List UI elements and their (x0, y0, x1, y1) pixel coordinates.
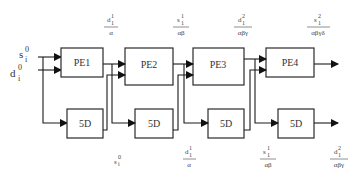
pe4-block: PE4 (266, 48, 314, 77)
svg-text:s: s (314, 16, 317, 24)
svg-text:1: 1 (181, 20, 184, 26)
top-label-4: s 2 1 αβγδ (307, 13, 330, 37)
svg-text:1: 1 (318, 20, 321, 26)
delay-3-label: 5D (220, 118, 232, 129)
svg-text:0: 0 (118, 154, 121, 160)
pe2-block: PE2 (125, 48, 173, 85)
svg-text:i: i (118, 161, 120, 167)
delay-block-4: 5D (278, 109, 314, 138)
bottom-label-4: d 2 1 αβγ (330, 145, 348, 169)
delay-4-label: 5D (290, 118, 302, 129)
svg-text:αβγ: αβγ (238, 29, 248, 37)
svg-text:αβ: αβ (264, 161, 272, 169)
pe3-block: PE3 (193, 48, 244, 85)
bottom-label-3: s 1 1 αβ (260, 145, 276, 169)
pe2-label: PE2 (141, 59, 158, 70)
pe3-label: PE3 (210, 59, 227, 70)
pe4-label: PE4 (282, 57, 299, 68)
delay-2-label: 5D (148, 118, 160, 129)
svg-text:αβγ: αβγ (334, 161, 344, 169)
svg-text:1: 1 (242, 20, 245, 26)
delay-block-1: 5D (67, 109, 103, 138)
svg-text:2: 2 (318, 13, 321, 19)
pe1-block: PE1 (61, 48, 103, 77)
top-label-3: d 2 1 αβγ (234, 13, 252, 37)
top-label-2: s 1 1 αβ (173, 13, 189, 37)
svg-text:1: 1 (189, 152, 192, 158)
bottom-label-1: s 0 i (114, 154, 121, 167)
svg-text:2: 2 (338, 145, 341, 151)
svg-text:2: 2 (242, 13, 245, 19)
svg-text:α: α (109, 29, 113, 37)
svg-text:αβ: αβ (177, 29, 185, 37)
delay-1-label: 5D (79, 118, 91, 129)
svg-text:1: 1 (189, 145, 192, 151)
svg-text:i: i (18, 74, 21, 83)
svg-text:s: s (177, 16, 180, 24)
delay2-to-pe3-arrow (173, 75, 193, 130)
delay1-to-pe2-arrow (103, 75, 125, 130)
svg-text:i: i (25, 55, 28, 64)
svg-text:s: s (263, 148, 266, 156)
svg-text:0: 0 (18, 63, 22, 72)
svg-text:1: 1 (111, 13, 114, 19)
bottom-label-2: d 1 1 α (183, 145, 196, 169)
delay-block-2: 5D (135, 109, 173, 138)
input-label-s: s 0 i (19, 45, 29, 64)
svg-text:α: α (187, 161, 191, 169)
svg-text:d: d (10, 67, 16, 79)
svg-text:1: 1 (267, 145, 270, 151)
svg-text:1: 1 (338, 152, 341, 158)
input-label-d: d 0 i (10, 63, 22, 83)
svg-text:1: 1 (111, 20, 114, 26)
svg-text:s: s (114, 158, 117, 166)
svg-text:s: s (19, 48, 23, 60)
svg-text:αβγδ: αβγδ (311, 29, 325, 37)
delay-block-3: 5D (208, 109, 244, 138)
svg-text:1: 1 (181, 13, 184, 19)
svg-text:0: 0 (25, 45, 29, 54)
systolic-pipeline-diagram: s 0 i d 0 i PE1 PE2 PE3 PE4 5D 5D 5D (0, 0, 361, 183)
svg-text:1: 1 (267, 152, 270, 158)
top-label-1: d 1 1 α (104, 13, 118, 37)
pe1-label: PE1 (74, 57, 91, 68)
